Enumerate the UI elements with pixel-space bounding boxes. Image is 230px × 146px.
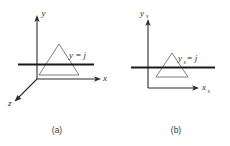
panel-b-y-axis: y s — [139, 8, 151, 88]
scanline-label-var: y — [177, 53, 182, 63]
panel-a-caption: (a) — [52, 125, 63, 135]
panel-a: y x z y = j — [7, 8, 107, 135]
panel-b-caption: (b) — [171, 125, 182, 135]
panel-a-z-axis-label: z — [7, 98, 12, 108]
panel-b-y-axis-label: y — [139, 8, 144, 18]
panel-b-scanline-label: y s = j — [177, 53, 198, 65]
figure-container: y x z y = j — [0, 0, 230, 146]
panel-a-scanline-label: y = j — [68, 50, 87, 60]
svg-text:y = j: y = j — [68, 50, 87, 60]
panel-b: y s x s y s = j (b) — [131, 8, 215, 135]
panel-a-y-axis-label: y — [41, 8, 46, 18]
panel-b-x-axis-label: x — [201, 82, 206, 92]
panel-b-y-axis-label-subscript: s — [146, 13, 149, 19]
panel-a-x-axis-label: x — [102, 73, 107, 83]
z-axis-line — [17, 79, 37, 99]
panel-b-triangle — [156, 53, 188, 77]
scanline-label-eq: = j — [187, 53, 198, 63]
panel-b-x-axis: x s — [148, 82, 211, 94]
panel-a-z-axis: z — [7, 79, 37, 108]
panel-b-x-axis-label-subscript: s — [208, 88, 211, 94]
panel-a-x-axis: x — [37, 73, 107, 83]
scanline-label-eq: = j — [73, 50, 87, 60]
